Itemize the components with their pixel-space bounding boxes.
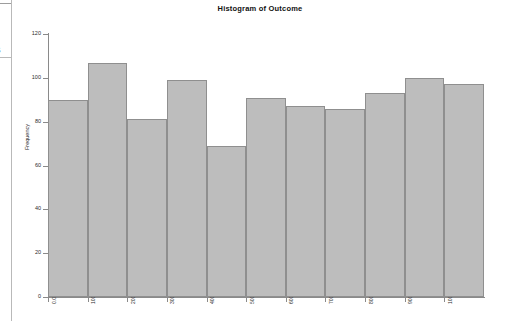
chart-title: Histogram of Outcome — [12, 4, 508, 13]
histogram-bar — [127, 119, 167, 297]
clipped-outline-text: s — [0, 43, 8, 57]
y-axis-tick-label: 80 — [35, 118, 41, 125]
x-axis-tick — [167, 298, 168, 302]
x-axis-tick — [365, 298, 366, 302]
y-axis-title: Frequency — [24, 124, 30, 150]
histogram-bar — [286, 106, 326, 297]
y-axis-tick-label: 60 — [35, 162, 41, 169]
y-axis-tick-label: 40 — [35, 205, 41, 212]
x-axis-tick — [88, 298, 89, 302]
x-axis-tick — [325, 298, 326, 302]
histogram-bar — [405, 78, 445, 297]
panel-rule-top — [0, 3, 11, 4]
y-axis-tick-label: 0 — [38, 293, 41, 300]
document-page: s Histogram of Outcome Frequency 0204060… — [0, 0, 508, 321]
panel-rule-middle — [0, 57, 11, 58]
y-axis-tick-label: 100 — [32, 74, 41, 81]
y-axis-tick-label: 120 — [32, 30, 41, 37]
x-axis-tick — [444, 298, 445, 302]
histogram-bar — [246, 98, 286, 297]
histogram-bar — [48, 100, 88, 297]
x-axis-tick — [48, 298, 49, 302]
x-axis-tick — [127, 298, 128, 302]
histogram-bar — [325, 109, 365, 297]
x-axis-tick — [286, 298, 287, 302]
x-axis-tick — [207, 298, 208, 302]
x-axis-tick — [405, 298, 406, 302]
histogram-bar — [365, 93, 405, 297]
x-axis-tick — [246, 298, 247, 302]
histogram-chart: Histogram of Outcome Frequency 020406080… — [12, 0, 508, 321]
plot-area — [48, 34, 484, 297]
histogram-bar — [444, 84, 484, 297]
x-axis-line — [48, 297, 485, 298]
histogram-bar — [207, 146, 247, 297]
histogram-bar — [167, 80, 207, 297]
y-axis-tick-label: 20 — [35, 249, 41, 256]
histogram-bar — [88, 63, 128, 298]
